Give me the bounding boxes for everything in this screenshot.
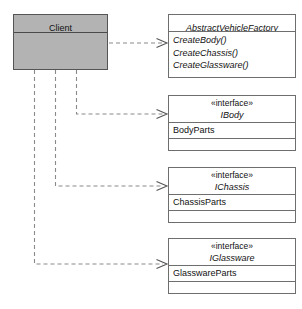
class-box-ibody[interactable]: «interface» IBody BodyParts: [168, 95, 296, 151]
operation-create-glassware: CreateGlassware(): [173, 59, 291, 72]
iglassware-title-compartment: «interface» IGlassware: [169, 239, 295, 265]
client-title-compartment: Client: [14, 15, 107, 32]
interface-name-ibody: IBody: [173, 109, 291, 121]
ichassis-attributes-compartment: ChassisParts: [169, 195, 295, 210]
class-name-client: Client: [49, 23, 72, 32]
edge-client-to-iglassware: [35, 70, 168, 269]
class-box-iglassware[interactable]: «interface» IGlassware GlasswareParts: [168, 238, 296, 294]
client-body-compartment: [14, 33, 107, 70]
attribute-body-parts: BodyParts: [173, 124, 291, 137]
class-box-ichassis[interactable]: «interface» IChassis ChassisParts: [168, 167, 296, 223]
abstract-factory-title-compartment: AbstractVehicleFactory: [169, 15, 295, 31]
stereotype-ichassis: «interface»: [173, 170, 291, 181]
stereotype-iglassware: «interface»: [173, 241, 291, 252]
interface-name-ichassis: IChassis: [173, 181, 291, 193]
abstract-factory-operations-compartment: CreateBody() CreateChassis() CreateGlass…: [169, 32, 295, 79]
uml-class-diagram: Client AbstractVehicleFactory CreateBody…: [0, 0, 302, 309]
edge-client-to-ibody: [77, 70, 168, 119]
ibody-attributes-compartment: BodyParts: [169, 123, 295, 138]
interface-name-iglassware: IGlassware: [173, 252, 291, 264]
class-box-abstract-vehicle-factory[interactable]: AbstractVehicleFactory CreateBody() Crea…: [168, 14, 296, 78]
ibody-title-compartment: «interface» IBody: [169, 96, 295, 122]
iglassware-attributes-compartment: GlasswareParts: [169, 266, 295, 281]
ibody-operations-compartment: [169, 139, 295, 153]
edge-client-to-abstract-factory: [109, 39, 167, 48]
operation-create-chassis: CreateChassis(): [173, 47, 291, 60]
ichassis-title-compartment: «interface» IChassis: [169, 168, 295, 194]
iglassware-operations-compartment: [169, 282, 295, 296]
stereotype-ibody: «interface»: [173, 98, 291, 109]
class-box-client[interactable]: Client: [13, 14, 108, 70]
attribute-chassis-parts: ChassisParts: [173, 196, 291, 209]
class-name-abstract-vehicle-factory: AbstractVehicleFactory: [186, 23, 278, 31]
edge-client-to-ichassis: [56, 70, 168, 191]
ichassis-operations-compartment: [169, 211, 295, 225]
operation-create-body: CreateBody(): [173, 34, 291, 47]
attribute-glassware-parts: GlasswareParts: [173, 267, 291, 280]
